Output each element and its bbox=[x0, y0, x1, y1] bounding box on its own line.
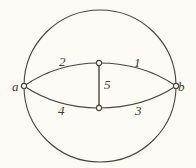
vertex-top-middle-marker bbox=[96, 60, 101, 65]
vertex-label-b: b bbox=[178, 80, 185, 93]
edge-label-4: 4 bbox=[58, 104, 65, 117]
edge-label-1: 1 bbox=[134, 56, 141, 69]
edge-label-5: 5 bbox=[104, 78, 111, 91]
outer-circle bbox=[24, 10, 176, 162]
figure-canvas: a b 1 2 3 4 5 bbox=[0, 0, 196, 168]
vertex-label-a: a bbox=[12, 80, 19, 93]
vertex-bottom-middle-marker bbox=[96, 105, 101, 110]
diagram-svg bbox=[0, 0, 196, 168]
edge-label-3: 3 bbox=[135, 104, 142, 117]
edge-label-2: 2 bbox=[59, 55, 66, 68]
vertex-a-marker bbox=[21, 83, 26, 88]
